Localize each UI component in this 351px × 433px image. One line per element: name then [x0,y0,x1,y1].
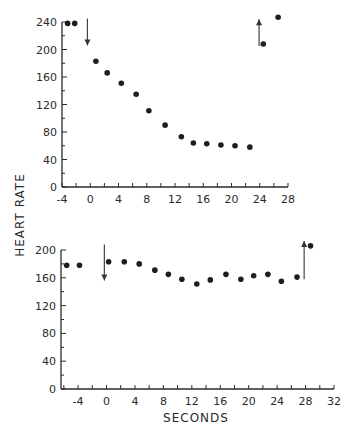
data-point [166,272,172,278]
data-point [279,278,285,284]
data-point [247,144,253,150]
x-tick-label: 32 [327,395,341,408]
data-point [265,272,271,278]
x-tick-label: 24 [270,395,284,408]
data-point [77,262,83,268]
y-axis-title: HEART RATE [13,173,27,256]
data-point [146,108,152,114]
arrowhead-icon [101,275,107,281]
y-tick-label: 80 [43,126,57,139]
data-point [93,58,99,64]
y-tick-label: 200 [36,44,57,57]
data-point [218,142,224,148]
x-axis-title: SECONDS [163,411,229,425]
arrowhead-icon [84,39,90,45]
x-tick-label: 20 [225,193,239,206]
y-tick-label: 40 [43,154,57,167]
x-tick-label: 4 [115,193,122,206]
x-tick-label: 28 [299,395,313,408]
x-tick-label: 28 [281,193,295,206]
data-point [179,276,185,282]
x-tick-label: 16 [196,193,210,206]
y-tick-label: 240 [36,16,57,29]
data-point [179,134,185,140]
data-point [260,41,266,47]
x-tick-label: -4 [57,193,68,206]
x-tick-label: 0 [87,193,94,206]
data-point [191,140,197,146]
data-point [72,21,78,27]
data-point [232,143,238,149]
x-tick-label: -4 [73,395,84,408]
y-tick-label: 0 [49,383,56,396]
data-point [294,274,300,280]
x-tick-label: 12 [185,395,199,408]
data-point [64,262,70,268]
y-tick-label: 120 [35,300,56,313]
data-point [65,21,71,27]
x-tick-label: 16 [213,395,227,408]
data-point [152,267,158,273]
bottom-panel-chart: 04080120160200-4048121620242832 [35,241,341,408]
x-tick-label: 4 [131,395,138,408]
data-point [162,122,168,128]
data-point [223,272,229,278]
arrowhead-icon [256,19,262,25]
top-panel-chart: 04080120160200240-40481216202428 [36,14,295,206]
data-point [106,259,112,265]
x-tick-label: 12 [168,193,182,206]
data-point [133,91,139,97]
x-tick-label: 0 [103,395,110,408]
data-point [238,276,244,282]
y-tick-label: 160 [35,272,56,285]
data-point [275,14,281,20]
y-tick-label: 80 [42,327,56,340]
x-tick-label: 24 [253,193,267,206]
y-tick-label: 200 [35,244,56,257]
data-point [119,80,125,86]
x-tick-label: 8 [143,193,150,206]
y-tick-label: 120 [36,99,57,112]
data-point [121,259,127,265]
x-tick-label: 20 [242,395,256,408]
y-tick-label: 160 [36,71,57,84]
x-tick-label: 8 [160,395,167,408]
y-tick-label: 40 [42,355,56,368]
heart-rate-figure: 04080120160200240-40481216202428 0408012… [0,0,351,433]
data-point [194,281,200,287]
data-point [207,277,213,283]
data-point [136,261,142,267]
arrowhead-icon [301,241,307,247]
data-point [308,243,314,249]
data-point [204,141,210,147]
data-point [251,273,257,279]
data-point [104,70,110,76]
